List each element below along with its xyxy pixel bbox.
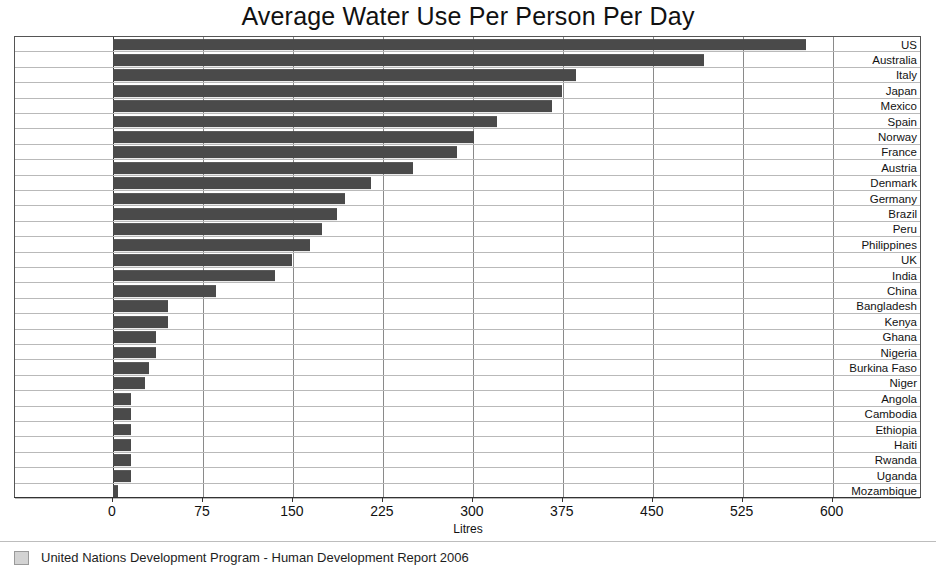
- bar: [113, 285, 216, 297]
- x-tick-label: 150: [280, 503, 303, 519]
- x-tick-label: 375: [550, 503, 573, 519]
- bar: [113, 270, 275, 282]
- category-label: Cambodia: [821, 408, 920, 420]
- x-tick-label: 225: [370, 503, 393, 519]
- x-axis-title: Litres: [0, 522, 936, 536]
- bar: [113, 131, 474, 143]
- chart-row: Italy: [15, 68, 920, 83]
- chart-row: Austria: [15, 160, 920, 175]
- chart-row: Rwanda: [15, 453, 920, 468]
- bar: [113, 347, 156, 359]
- chart-row: Cambodia: [15, 407, 920, 422]
- bar: [113, 239, 310, 251]
- chart-row: Japan: [15, 83, 920, 98]
- x-tick-225: [382, 497, 383, 502]
- bar: [113, 70, 576, 82]
- legend-label: United Nations Development Program - Hum…: [41, 550, 469, 565]
- chart-row: Norway: [15, 129, 920, 144]
- x-tick-150: [292, 497, 293, 502]
- bar: [113, 254, 292, 266]
- chart-title: Average Water Use Per Person Per Day: [0, 2, 936, 31]
- chart-row: Germany: [15, 191, 920, 206]
- chart-row: Nigeria: [15, 345, 920, 360]
- bar: [113, 470, 131, 482]
- x-tick-label: 450: [640, 503, 663, 519]
- category-label: Kenya: [821, 316, 920, 328]
- chart-row: Philippines: [15, 237, 920, 252]
- x-tick-label: 75: [194, 503, 210, 519]
- bar: [113, 85, 562, 97]
- row-separator: [15, 498, 920, 499]
- category-label: India: [821, 270, 920, 282]
- category-label: Uganda: [821, 470, 920, 482]
- bar: [113, 362, 149, 374]
- x-tick-label: 525: [730, 503, 753, 519]
- category-label: Ghana: [821, 331, 920, 343]
- category-label: Norway: [821, 131, 920, 143]
- bar: [113, 331, 156, 343]
- x-tick-0: [112, 497, 113, 502]
- bar-chart: Average Water Use Per Person Per Day USA…: [0, 0, 936, 571]
- chart-row: US: [15, 37, 920, 52]
- category-label: Burkina Faso: [821, 362, 920, 374]
- category-label: US: [821, 39, 920, 51]
- chart-row: Burkina Faso: [15, 360, 920, 375]
- category-label: Nigeria: [821, 347, 920, 359]
- x-tick-450: [652, 497, 653, 502]
- bar: [113, 316, 168, 328]
- x-tick-525: [742, 497, 743, 502]
- x-tick-375: [562, 497, 563, 502]
- legend-entry: United Nations Development Program - Hum…: [14, 550, 469, 565]
- bar: [113, 301, 168, 313]
- bar: [113, 177, 371, 189]
- chart-row: Mexico: [15, 99, 920, 114]
- category-label: Mozambique: [821, 485, 920, 497]
- category-label: Mexico: [821, 100, 920, 112]
- bar: [113, 116, 497, 128]
- chart-row: Niger: [15, 376, 920, 391]
- chart-row: Denmark: [15, 176, 920, 191]
- category-label: Spain: [821, 116, 920, 128]
- chart-row: Angola: [15, 391, 920, 406]
- category-label: Denmark: [821, 177, 920, 189]
- chart-row: Ghana: [15, 330, 920, 345]
- bar: [113, 193, 345, 205]
- chart-row: France: [15, 145, 920, 160]
- bar: [113, 208, 337, 220]
- category-label: France: [821, 146, 920, 158]
- category-label: Philippines: [821, 239, 920, 251]
- category-label: Japan: [821, 85, 920, 97]
- legend-swatch-icon: [14, 551, 29, 565]
- bar: [113, 162, 413, 174]
- category-label: UK: [821, 254, 920, 266]
- chart-row: Spain: [15, 114, 920, 129]
- category-label: Ethiopia: [821, 424, 920, 436]
- x-tick-75: [202, 497, 203, 502]
- chart-row: Haiti: [15, 437, 920, 452]
- bar: [113, 485, 118, 497]
- bar: [113, 424, 131, 436]
- category-label: Italy: [821, 69, 920, 81]
- category-label: Peru: [821, 223, 920, 235]
- bar: [113, 39, 806, 51]
- category-rows: USAustraliaItalyJapanMexicoSpainNorwayFr…: [15, 37, 920, 497]
- bar: [113, 393, 131, 405]
- chart-row: Kenya: [15, 314, 920, 329]
- chart-row: Uganda: [15, 468, 920, 483]
- bar: [113, 439, 131, 451]
- category-label: Australia: [821, 54, 920, 66]
- chart-row: Bangladesh: [15, 299, 920, 314]
- chart-row: China: [15, 283, 920, 298]
- plot-area: USAustraliaItalyJapanMexicoSpainNorwayFr…: [14, 36, 921, 498]
- x-tick-label: 600: [820, 503, 843, 519]
- category-label: Austria: [821, 162, 920, 174]
- x-axis-line: [14, 497, 921, 498]
- bar: [113, 378, 145, 390]
- chart-row: UK: [15, 253, 920, 268]
- bar: [113, 408, 131, 420]
- category-label: Rwanda: [821, 454, 920, 466]
- category-label: Bangladesh: [821, 300, 920, 312]
- plot-inner: USAustraliaItalyJapanMexicoSpainNorwayFr…: [15, 37, 920, 497]
- chart-row: Brazil: [15, 206, 920, 221]
- x-tick-label: 0: [108, 503, 116, 519]
